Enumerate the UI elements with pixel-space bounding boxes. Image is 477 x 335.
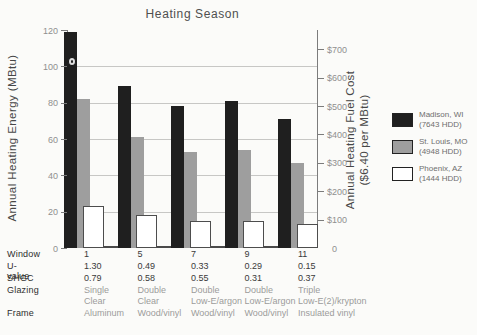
table-cell-window-col2: 5 — [138, 249, 143, 260]
legend-label-name: Madison, WI — [419, 110, 463, 120]
table-cell-glazing-col5: TripleLow-E(2)/krypton — [298, 285, 367, 307]
right-tick-$300 — [318, 163, 324, 164]
table-cell-window-col1: 1 — [84, 249, 89, 260]
table-cell-u-value-col5: 0.15 — [298, 261, 316, 272]
table-cell-line: Clear — [84, 296, 109, 307]
table-row-label-frame: Frame — [7, 308, 34, 318]
table-cell-line: Clear — [138, 296, 167, 307]
table-cell-shgc-col3: 0.55 — [191, 273, 209, 284]
legend-label-detail: (7643 HDD) — [419, 120, 463, 130]
left-tick-100 — [61, 66, 67, 67]
table-cell-line: Wood/vinyl — [191, 308, 235, 319]
table-cell-glazing-col3: DoubleLow-E/argon — [191, 285, 242, 307]
table-cell-line: 0.33 — [191, 261, 209, 272]
table-cell-glazing-col2: DoubleClear — [138, 285, 167, 307]
legend-item-2: St. Louis, MO(4948 HDD) — [392, 137, 467, 156]
right-tick-$200 — [318, 191, 324, 192]
right-tick-$500 — [318, 106, 324, 107]
table-cell-line: 7 — [191, 249, 196, 260]
right-tick-label-$700: $700 — [327, 45, 347, 55]
chart-title: Heating Season — [0, 7, 385, 21]
table-cell-frame-col3: Wood/vinyl — [191, 308, 235, 319]
bar-series3-window11 — [297, 224, 318, 248]
legend-label-3: Phoenix, AZ(1444 HDD) — [419, 164, 462, 183]
table-cell-shgc-col4: 0.31 — [245, 273, 263, 284]
bar-series3-window1 — [83, 206, 104, 248]
left-tick-60 — [61, 139, 67, 140]
table-cell-line: Low-E/argon — [245, 296, 296, 307]
table-cell-window-col5: 11 — [298, 249, 307, 260]
legend-label-name: Phoenix, AZ — [419, 164, 462, 174]
left-tick-40 — [61, 175, 67, 176]
table-cell-shgc-col1: 0.79 — [84, 273, 102, 284]
right-tick-$700 — [318, 49, 324, 50]
bar-series1-window9 — [225, 101, 238, 248]
table-cell-line: Double — [138, 285, 167, 296]
left-tick-label-60: 60 — [32, 135, 58, 145]
legend-item-1: Madison, WI(7643 HDD) — [392, 110, 463, 129]
table-cell-line: Triple — [298, 285, 367, 296]
table-cell-line: 1.30 — [84, 261, 102, 272]
right-tick-$600 — [318, 78, 324, 79]
table-cell-line: Wood/vinyl — [138, 308, 182, 319]
table-cell-line: 0.29 — [245, 261, 263, 272]
table-cell-line: 0.79 — [84, 273, 102, 284]
table-cell-shgc-col2: 0.58 — [138, 273, 156, 284]
table-cell-line: 11 — [298, 249, 307, 260]
table-cell-line: 9 — [245, 249, 250, 260]
table-row-label-window: Window — [7, 249, 40, 259]
left-tick-label-100: 100 — [32, 62, 58, 72]
right-tick-$400 — [318, 134, 324, 135]
table-cell-line: 0.58 — [138, 273, 156, 284]
right-tick-label-0: 0 — [332, 244, 337, 254]
table-cell-line: 0.37 — [298, 273, 316, 284]
left-axis-label: Annual Heating Energy (MBtu) — [6, 54, 18, 221]
table-cell-frame-col1: Aluminum — [84, 308, 124, 319]
table-row-label-shgc: SHGC — [7, 273, 34, 283]
legend-swatch-1 — [392, 113, 413, 127]
legend-swatch-2 — [392, 140, 413, 154]
table-cell-line: 0.55 — [191, 273, 209, 284]
table-cell-line: 0.15 — [298, 261, 316, 272]
right-axis-label: Annual Heating Fuel Cost ($6.40 per MBtu… — [343, 71, 371, 209]
table-cell-line: 0.49 — [138, 261, 156, 272]
table-cell-window-col3: 7 — [191, 249, 196, 260]
table-cell-line: Wood/vinyl — [245, 308, 289, 319]
left-tick-120 — [61, 30, 67, 31]
scan-artifact — [68, 57, 76, 66]
legend-label-1: Madison, WI(7643 HDD) — [419, 110, 463, 129]
legend-label-2: St. Louis, MO(4948 HDD) — [419, 137, 467, 156]
figure-heating-season: Heating Season Annual Heating Energy (MB… — [0, 0, 477, 335]
legend-label-detail: (1444 HDD) — [419, 174, 462, 184]
right-tick-label-$500: $500 — [327, 102, 347, 112]
bar-series3-window9 — [243, 221, 264, 248]
table-cell-line: Aluminum — [84, 308, 124, 319]
right-tick-$100 — [318, 220, 324, 221]
table-cell-line: Low-E/argon — [191, 296, 242, 307]
right-tick-label-$300: $300 — [327, 158, 347, 168]
left-tick-label-40: 40 — [32, 171, 58, 181]
table-cell-line: Single — [84, 285, 109, 296]
legend-item-3: Phoenix, AZ(1444 HDD) — [392, 164, 462, 183]
table-cell-window-col4: 9 — [245, 249, 250, 260]
left-tick-label-80: 80 — [32, 98, 58, 108]
table-cell-glazing-col1: SingleClear — [84, 285, 109, 307]
table-cell-u-value-col1: 1.30 — [84, 261, 102, 272]
left-tick-label-120: 120 — [32, 26, 58, 36]
left-tick-80 — [61, 103, 67, 104]
bar-series3-window5 — [136, 215, 157, 248]
right-tick-label-$200: $200 — [327, 187, 347, 197]
bar-series3-window7 — [190, 221, 211, 248]
table-cell-line: 5 — [138, 249, 143, 260]
left-tick-20 — [61, 212, 67, 213]
right-tick-label-$600: $600 — [327, 73, 347, 83]
table-cell-line: Double — [191, 285, 242, 296]
table-cell-shgc-col5: 0.37 — [298, 273, 316, 284]
table-cell-line: 0.31 — [245, 273, 263, 284]
table-cell-glazing-col4: DoubleLow-E/argon — [245, 285, 296, 307]
table-cell-line: 1 — [84, 249, 89, 260]
right-tick-label-$100: $100 — [327, 215, 347, 225]
right-axis-label-line2: ($6.40 per MBtu) — [357, 71, 371, 209]
table-cell-line: Low-E(2)/krypton — [298, 296, 367, 307]
bar-series1-window11 — [278, 119, 291, 248]
